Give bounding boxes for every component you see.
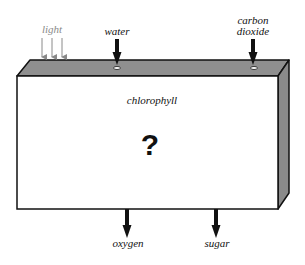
light-input: light — [42, 23, 63, 57]
sugar-arrow-icon — [212, 209, 221, 238]
sugar-output: sugar — [204, 209, 230, 249]
water-inlet-hole — [114, 67, 121, 70]
box-top-face — [17, 60, 289, 76]
oxygen-arrow-icon — [123, 209, 132, 238]
sugar-label: sugar — [204, 237, 230, 249]
water-label: water — [104, 25, 130, 37]
carbon-dioxide-inlet-hole — [251, 67, 258, 70]
chlorophyll-label: chlorophyll — [127, 94, 177, 106]
photosynthesis-diagram: light water carbon dioxide chlorophyll ?… — [0, 0, 305, 265]
oxygen-output: oxygen — [112, 209, 144, 249]
carbon-dioxide-label-line2: dioxide — [237, 25, 269, 37]
oxygen-label: oxygen — [112, 237, 144, 249]
box-side-face — [278, 60, 289, 209]
light-label: light — [42, 23, 63, 35]
unknown-process-symbol: ? — [141, 128, 159, 161]
